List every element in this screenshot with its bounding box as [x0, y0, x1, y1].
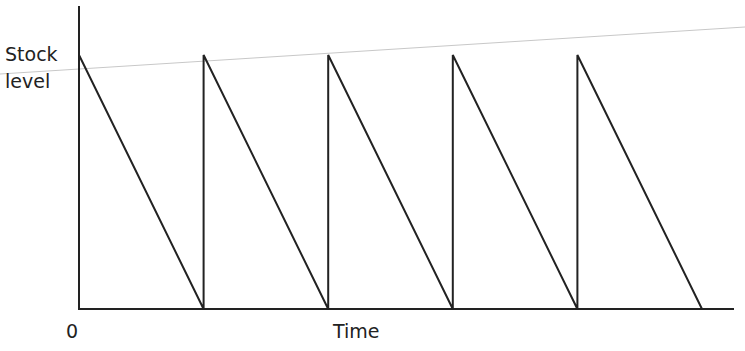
- y-axis-label-line1: Stock: [5, 41, 65, 68]
- y-axis-label-line2: level: [5, 68, 65, 95]
- y-axis-label: Stock level: [5, 41, 65, 95]
- stock-level-series: [79, 55, 702, 309]
- x-axis-label: Time: [333, 320, 380, 342]
- chart-canvas: [0, 0, 745, 351]
- origin-label: 0: [66, 320, 78, 342]
- reference-line: [0, 27, 745, 74]
